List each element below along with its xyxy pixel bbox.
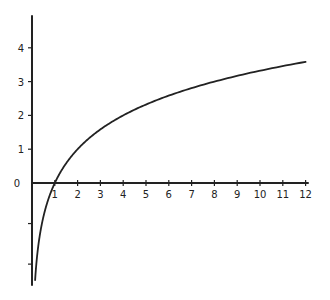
log-curve — [35, 62, 305, 280]
x-tick-label: 2 — [74, 189, 80, 200]
x-tick-label: 5 — [143, 189, 149, 200]
x-tick-label: 10 — [254, 189, 267, 200]
x-tick-label: 12 — [299, 189, 312, 200]
origin-label: 0 — [14, 178, 20, 189]
x-tick-label: 4 — [120, 189, 126, 200]
y-tick-label: 3 — [18, 77, 24, 88]
x-tick-label: 1 — [52, 189, 58, 200]
axes — [32, 16, 308, 285]
x-tick-label: 11 — [276, 189, 289, 200]
y-tick-label: 4 — [18, 43, 24, 54]
y-tick-label: 2 — [18, 110, 24, 121]
y-ticks: 4321 — [18, 43, 32, 264]
x-tick-label: 9 — [234, 189, 240, 200]
x-tick-label: 6 — [166, 189, 172, 200]
chart: 123456789101112 4321 0 — [0, 0, 330, 300]
x-tick-label: 7 — [188, 189, 194, 200]
x-tick-label: 3 — [97, 189, 103, 200]
y-tick-label: 1 — [18, 144, 24, 155]
x-tick-label: 8 — [211, 189, 217, 200]
